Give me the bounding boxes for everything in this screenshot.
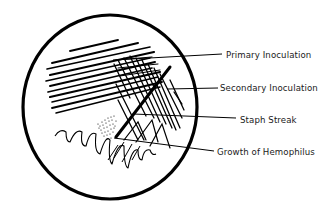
label-secondary-inoculation: Secondary Inoculation bbox=[220, 83, 318, 93]
label-primary-inoculation: Primary Inoculation bbox=[226, 50, 311, 60]
label-staph-streak: Staph Streak bbox=[240, 115, 297, 125]
petri-dish-diagram: Primary Inoculation Secondary Inoculatio… bbox=[0, 0, 336, 209]
label-growth-of-hemophilus: Growth of Hemophilus bbox=[217, 147, 315, 157]
leader-line-secondary bbox=[167, 88, 218, 89]
leader-line-staph bbox=[133, 114, 236, 118]
staph-streak-line bbox=[116, 67, 170, 137]
hemophilus-growth-stipple bbox=[97, 115, 116, 139]
